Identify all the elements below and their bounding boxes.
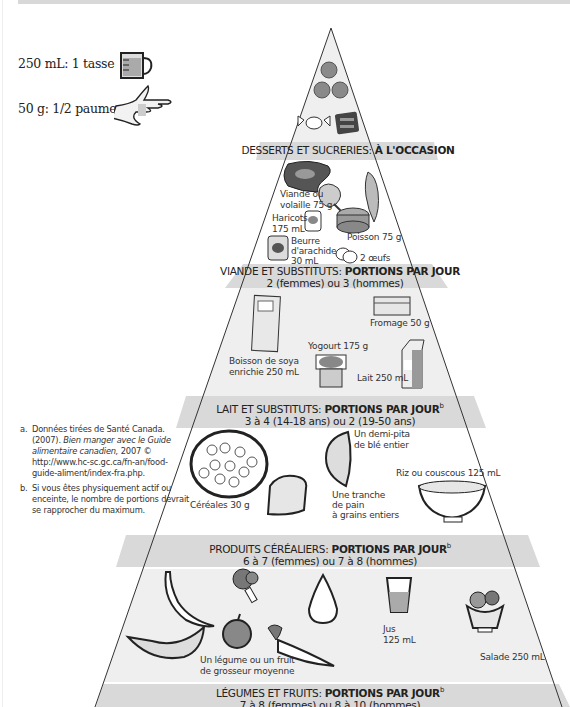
label-beurre-arachide: Beurre d'arachide 30 mL: [291, 236, 336, 266]
measuring-cup-icon: [117, 50, 157, 82]
label-lait: Lait 250 mL: [357, 373, 408, 384]
legend-cup: 250 mL: 1 tasse: [18, 56, 114, 71]
legend-palm: 50 g: 1/2 paume: [18, 101, 116, 116]
label-jus: Jus 125 mL: [383, 624, 416, 646]
hand-palm-icon: [114, 84, 176, 130]
label-tranche-pain: Une tranche de pain à grains entiers: [332, 490, 399, 520]
label-riz-couscous: Riz ou couscous 125 mL: [396, 468, 500, 479]
footnote-b: b. Si vous êtes physiquement actif ou en…: [20, 483, 190, 516]
legend-palm-text: 50 g: 1/2 paume: [18, 101, 116, 116]
label-cereales: Céréales 30 g: [190, 500, 249, 511]
peanut-butter-jar-icon: [268, 236, 288, 260]
cookie-icon: [314, 82, 330, 98]
label-boisson-soya: Boisson de soya enrichie 250 mL: [229, 356, 299, 378]
cheese-icon: [374, 297, 410, 315]
label-viande-volaille: Viande ou volaille 75 g: [280, 189, 332, 211]
salad-bowl-icon: [467, 591, 503, 632]
bread-slice-icon: [268, 476, 306, 515]
cookie-icon: [321, 62, 337, 78]
tier-subtitle-cereales: 6 à 7 (femmes) ou 7 à 8 (hommes): [170, 555, 490, 567]
cereal-bowl-icon: [191, 431, 267, 497]
label-yogourt: Yogourt 175 g: [308, 341, 368, 352]
soy-drink-carton-icon: [252, 295, 281, 351]
label-salade: Salade 250 mL: [480, 652, 545, 663]
footnotes: a. Données tirées de Santé Canada. (2007…: [20, 424, 190, 520]
label-fromage: Fromage 50 g: [370, 318, 430, 329]
tier-subtitle-legumes: 7 à 8 (femmes) ou 8 à 10 (hommes): [170, 699, 490, 707]
label-pita: Un demi-pita de blé entier: [354, 429, 410, 451]
tier-subtitle-lait: 3 à 4 (14-18 ans) ou 2 (19-50 ans): [200, 415, 460, 427]
tier-title-desserts: DESSERTS ET SUCRERIES: À L'OCCASION: [240, 144, 456, 156]
chocolate-bar-icon: [335, 112, 360, 135]
footnote-a: a. Données tirées de Santé Canada. (2007…: [20, 424, 190, 479]
tier-title-cereales: PRODUITS CÉRÉALIERS: PORTIONS PAR JOURb …: [170, 540, 490, 567]
cookie-icon: [332, 82, 348, 98]
tuna-can-icon: [337, 208, 369, 233]
juice-glass-icon: [387, 578, 411, 612]
label-poisson: Poisson 75 g: [347, 232, 401, 243]
tier-title-lait: LAIT ET SUBSTITUTS: PORTIONS PAR JOURb 3…: [200, 400, 460, 427]
label-oeufs: 2 œufs: [360, 253, 390, 264]
label-legume-fruit: Un légume ou un fruit de grosseur moyenn…: [200, 655, 295, 677]
legend-cup-text: 250 mL: 1 tasse: [18, 56, 114, 71]
yogurt-icon: [316, 355, 346, 387]
label-haricots: Haricots 175 mL: [272, 213, 308, 235]
tier-title-legumes: LÉGUMES ET FRUITS: PORTIONS PAR JOURb 7 …: [170, 684, 490, 707]
tier-title-viande: VIANDE ET SUBSTITUTS: PORTIONS PAR JOUR …: [220, 265, 450, 289]
tier-subtitle-viande: 2 (femmes) ou 3 (hommes): [220, 277, 450, 289]
